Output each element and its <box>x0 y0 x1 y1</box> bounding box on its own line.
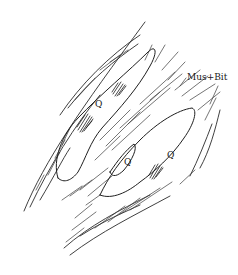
hatched-grain-3 <box>149 164 163 179</box>
label-quartz-1: Q <box>95 100 102 109</box>
sketch-drawing <box>0 0 238 275</box>
label-mus-bit: Mus+Bit <box>187 73 227 82</box>
foliation-strokes-bottom <box>64 182 172 255</box>
thin-section-sketch: Mus+Bit Q Q Q <box>0 0 238 275</box>
label-quartz-2: Q <box>124 158 131 167</box>
foliation-strokes-left <box>24 22 145 211</box>
label-quartz-3: Q <box>167 151 174 160</box>
